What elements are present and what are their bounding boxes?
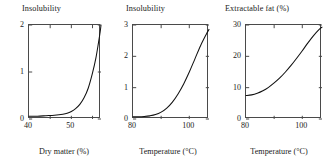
panel-1-x-axis-label: Dry matter (%) [18, 147, 110, 156]
panel-1-y-tick-label: 1 [0, 67, 24, 76]
panel-insolubility-temperature: Insolubility 0123 80100 Temperature (°C) [106, 0, 216, 161]
three-panel-figure: Insolubility 012 4050 Dry matter (%) Ins… [0, 0, 329, 161]
panel-3-curve [246, 27, 322, 95]
panel-3-y-tick-label: 30 [216, 20, 241, 29]
panel-2-x-tick-label: 100 [182, 121, 194, 130]
panel-3-y-tick-label: 10 [216, 82, 241, 91]
panel-2-x-tick-label: 80 [128, 121, 136, 130]
panel-2-plot-area [132, 24, 208, 118]
panel-2-y-tick-label: 1 [106, 82, 128, 91]
panel-1-x-tick-label: 40 [24, 121, 32, 130]
panel-1-svg [29, 25, 101, 119]
panel-2-y-tick-label: 2 [106, 51, 128, 60]
panel-2-title: Insolubility [126, 4, 165, 13]
panel-2-curve [133, 29, 209, 116]
panel-1-plot-area [28, 24, 100, 118]
panel-3-title: Extractable fat (%) [225, 4, 289, 13]
panel-2-y-tick-label: 3 [106, 20, 128, 29]
panel-1-curve [29, 25, 101, 116]
panel-3-y-tick-label: 0 [216, 114, 241, 123]
panel-3-svg [246, 25, 322, 119]
panel-1-x-tick-label: 50 [66, 121, 74, 130]
panel-3-x-axis-label: Temperature (°C) [230, 147, 328, 156]
panel-2-x-axis-label: Temperature (°C) [118, 147, 218, 156]
panel-3-y-tick-label: 20 [216, 51, 241, 60]
panel-3-plot-area [245, 24, 321, 118]
panel-insolubility-dry-matter: Insolubility 012 4050 Dry matter (%) [0, 0, 106, 161]
panel-1-tickmarks [29, 25, 101, 119]
panel-1-y-tick-label: 2 [0, 20, 24, 29]
panel-1-title: Insolubility [22, 4, 61, 13]
panel-2-y-tick-label: 0 [106, 114, 128, 123]
panel-2-tickmarks [133, 25, 209, 119]
panel-extractable-fat: Extractable fat (%) 0102030 80100 Temper… [216, 0, 329, 161]
panel-3-x-tick-label: 100 [295, 121, 307, 130]
panel-3-x-tick-label: 80 [241, 121, 249, 130]
panel-2-svg [133, 25, 209, 119]
panel-1-y-tick-label: 0 [0, 114, 24, 123]
